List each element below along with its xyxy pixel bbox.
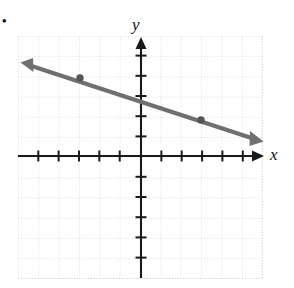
list-bullet-marker: •: [2, 16, 12, 26]
x-axis-label: x: [270, 146, 278, 163]
y-axis-label: y: [132, 16, 140, 33]
graph-figure: •: [0, 0, 294, 288]
coordinate-plane-svg: [0, 0, 294, 288]
